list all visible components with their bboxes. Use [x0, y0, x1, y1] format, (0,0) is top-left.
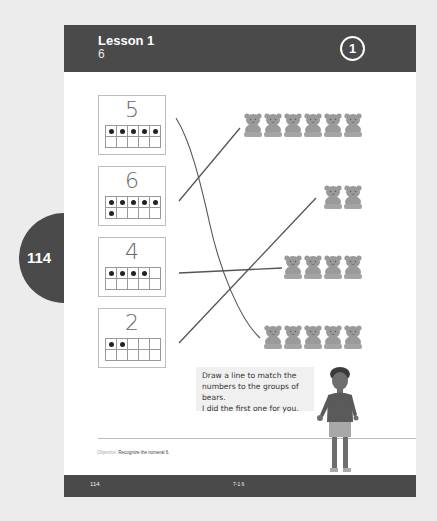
matching-lines	[0, 0, 437, 521]
footer-page-number: 114	[90, 481, 100, 487]
line-2-to-2-bears	[179, 198, 316, 343]
objective-label: Objective:	[97, 450, 117, 455]
line-6-to-6-bears	[179, 128, 240, 201]
divider	[98, 438, 416, 439]
instruction-line-3: I did the first one for you.	[202, 403, 314, 414]
instruction-line-2: numbers to the groups of bears.	[202, 381, 314, 403]
line-4-to-4-bears	[179, 268, 282, 273]
objective: Objective: Recognize the numeral 6.	[97, 450, 170, 455]
footer-lesson-code: 7-1 6	[233, 481, 244, 487]
instruction-speech-box: Draw a line to match the numbers to the …	[196, 367, 314, 411]
objective-text: Recognize the numeral 6.	[118, 450, 169, 455]
instruction-line-1: Draw a line to match the	[202, 370, 314, 381]
line-5-to-5-bears	[176, 118, 260, 338]
boy-illustration	[315, 367, 365, 475]
